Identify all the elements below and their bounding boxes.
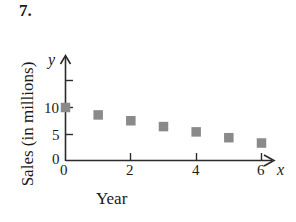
y-tick-label-5: 5 (52, 128, 60, 143)
x-axis-variable-label: x (277, 162, 284, 178)
data-point-marker (159, 122, 169, 132)
y-tick-label-0: 0 (52, 152, 60, 167)
data-point-marker (191, 127, 201, 137)
x-tick-label-2: 2 (126, 163, 134, 178)
x-tick-label-4: 4 (192, 163, 200, 178)
data-point-marker (126, 116, 136, 126)
data-point-marker (224, 133, 234, 143)
y-tick-label-10: 10 (44, 101, 59, 116)
y-axis-variable-label: y (48, 52, 55, 68)
x-axis (66, 155, 275, 166)
x-tick-label-6: 6 (257, 163, 265, 178)
x-tick-label-0: 0 (60, 163, 68, 178)
figure-container: 7. Sales (in millions) Year 10 5 (0, 0, 296, 222)
data-point-marker (61, 103, 71, 113)
x-axis-ticks (131, 153, 262, 161)
data-point-marker (93, 110, 103, 120)
data-point-marker (257, 138, 267, 148)
data-points (61, 103, 267, 148)
